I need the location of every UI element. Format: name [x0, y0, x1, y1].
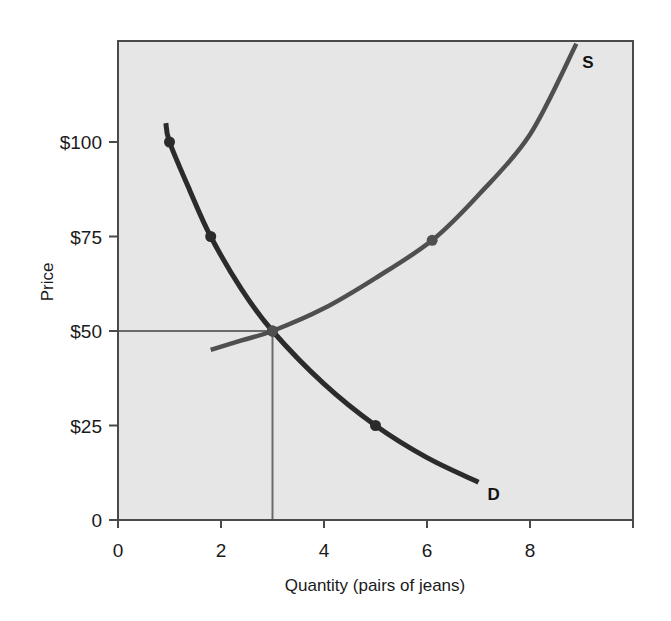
x-tick-label: 8 [525, 540, 536, 561]
x-tick-label: 6 [422, 540, 433, 561]
demand-point-marker [205, 231, 216, 242]
y-tick-label: $100 [60, 132, 102, 153]
demand-point-marker [164, 137, 175, 148]
supply-demand-chart: 02468 0$25$50$75$100 DS Quantity (pairs … [0, 0, 671, 621]
y-tick-label: $25 [70, 416, 102, 437]
y-axis-ticks: 0$25$50$75$100 [60, 132, 118, 531]
supply-point-marker [427, 235, 438, 246]
demand-point-marker [370, 420, 381, 431]
y-tick-label: 0 [91, 510, 102, 531]
y-tick-label: $75 [70, 227, 102, 248]
supply-curve-label: S [582, 53, 593, 72]
x-axis-title: Quantity (pairs of jeans) [285, 576, 465, 595]
x-axis-ticks: 02468 [113, 520, 633, 561]
demand-curve-label: D [488, 485, 500, 504]
x-tick-label: 4 [319, 540, 330, 561]
y-tick-label: $50 [70, 321, 102, 342]
x-tick-label: 2 [216, 540, 227, 561]
y-axis-title: Price [38, 263, 57, 302]
supply-point-marker [267, 326, 278, 337]
x-tick-label: 0 [113, 540, 124, 561]
